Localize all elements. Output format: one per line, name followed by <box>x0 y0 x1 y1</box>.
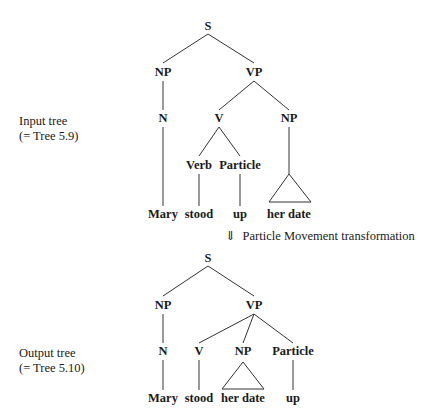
node-np-object: NP <box>281 112 298 125</box>
node-vp: VP <box>246 299 263 312</box>
node-np: NP <box>155 66 172 79</box>
leaf-mary: Mary <box>148 392 178 405</box>
leaf-her-date: her date <box>267 208 311 221</box>
caption-line: Input tree <box>19 114 78 129</box>
node-s: S <box>205 20 212 33</box>
caption-line: Output tree <box>19 346 85 361</box>
leaf-up: up <box>286 392 300 405</box>
node-v: V <box>214 112 223 125</box>
output-tree-caption: Output tree (= Tree 5.10) <box>19 346 85 376</box>
leaf-stood: stood <box>185 392 213 405</box>
node-vp: VP <box>246 66 263 79</box>
node-np: NP <box>155 299 172 312</box>
leaf-up: up <box>233 208 247 221</box>
transformation-note: ⇓ Particle Movement transformation <box>225 228 415 244</box>
node-np-object: NP <box>235 345 252 358</box>
transformation-label: Particle Movement transformation <box>243 229 415 243</box>
node-v: V <box>194 345 203 358</box>
node-verb: Verb <box>186 159 212 172</box>
node-particle: Particle <box>219 159 261 172</box>
node-n: N <box>158 345 167 358</box>
input-tree-caption: Input tree (= Tree 5.9) <box>19 114 78 144</box>
node-particle: Particle <box>272 345 314 358</box>
leaf-her-date: her date <box>221 392 265 405</box>
leaf-mary: Mary <box>148 208 178 221</box>
node-s: S <box>205 252 212 265</box>
caption-line: (= Tree 5.9) <box>19 129 78 144</box>
caption-line: (= Tree 5.10) <box>19 361 85 376</box>
down-arrow-icon: ⇓ <box>225 229 235 243</box>
node-n: N <box>158 112 167 125</box>
leaf-stood: stood <box>185 208 213 221</box>
